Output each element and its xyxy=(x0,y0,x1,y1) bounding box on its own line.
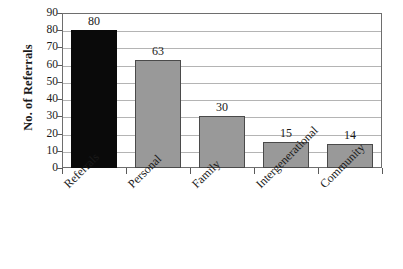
bar-chart: No. of Referrals 0102030405060708090 806… xyxy=(0,0,403,269)
x-axis-tick-mark xyxy=(126,168,127,174)
y-axis-tick-label: 0 xyxy=(32,162,58,173)
y-axis-tick-label: 70 xyxy=(32,41,58,52)
y-axis-tick-mark xyxy=(57,47,62,48)
y-axis-tick-label: 10 xyxy=(32,145,58,156)
bars-layer: 8063301514 xyxy=(62,13,382,168)
bar[interactable] xyxy=(199,116,245,168)
bar-value-label: 30 xyxy=(216,101,228,113)
y-axis-tick-label: 20 xyxy=(32,128,58,139)
bar-slot: 14 xyxy=(318,13,382,168)
x-axis-tick-mark xyxy=(190,168,191,174)
y-axis-tick-mark xyxy=(57,134,62,135)
bar[interactable] xyxy=(135,60,181,169)
x-axis-tick-mark xyxy=(382,168,383,174)
bar-slot: 63 xyxy=(126,13,190,168)
y-axis-tick-mark xyxy=(57,116,62,117)
y-axis-tick-label: 90 xyxy=(32,7,58,18)
bar-value-label: 80 xyxy=(88,15,100,27)
y-axis-tick-mark xyxy=(57,13,62,14)
bar-slot: 30 xyxy=(190,13,254,168)
x-axis-tick-mark xyxy=(62,168,63,174)
y-axis-tick-mark xyxy=(57,82,62,83)
y-axis-tick-label: 80 xyxy=(32,24,58,35)
x-axis-tick-mark xyxy=(318,168,319,174)
bar-slot: 80 xyxy=(62,13,126,168)
y-axis-tick-label: 50 xyxy=(32,76,58,87)
y-axis-tick-mark xyxy=(57,30,62,31)
bar-value-label: 15 xyxy=(280,127,292,139)
y-axis-tick-label: 40 xyxy=(32,93,58,104)
bar-value-label: 63 xyxy=(152,45,164,57)
bar-value-label: 14 xyxy=(344,129,356,141)
y-axis-tick-mark xyxy=(57,151,62,152)
y-axis-tick-labels: 0102030405060708090 xyxy=(30,13,58,168)
y-axis-tick-label: 60 xyxy=(32,59,58,70)
y-axis-tick-label: 30 xyxy=(32,110,58,121)
bar[interactable] xyxy=(71,30,117,168)
x-axis-tick-mark xyxy=(254,168,255,174)
y-axis-tick-mark xyxy=(57,65,62,66)
y-axis-tick-mark xyxy=(57,99,62,100)
